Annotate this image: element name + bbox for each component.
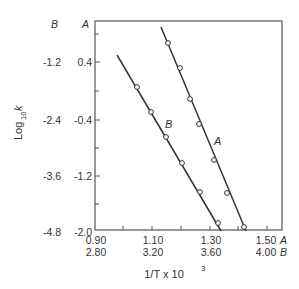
y-axis-title: Log 10 k <box>12 105 28 140</box>
x-tick-a-2: 1.30 <box>201 234 222 246</box>
y-axis-letter-a: A <box>81 18 89 30</box>
x-tick-labels-b: 2.80 3.20 3.60 4.00 <box>86 246 277 258</box>
data-point <box>166 41 171 46</box>
series-b: B <box>117 55 221 231</box>
y-axis-ticks <box>95 34 100 204</box>
data-point <box>216 221 221 226</box>
data-point <box>178 66 183 71</box>
x-tick-b-1: 3.20 <box>143 246 164 258</box>
data-point <box>197 122 202 127</box>
x-tick-b-2: 3.60 <box>201 246 222 258</box>
y-tick-labels-b: -1.2 -2.4 -3.6 -4.8 <box>43 56 61 238</box>
x-tick-a-3: 1.50 <box>256 234 277 246</box>
chart: B A -1.2 -2.4 -3.6 -4.8 0.4 -0.4 -1.2 -2… <box>0 0 299 289</box>
y-tick-b-2: -3.6 <box>43 170 61 182</box>
x-tick-a-0: 0.90 <box>86 234 107 246</box>
x-axis-title-main: 1/T x 10 <box>144 268 184 280</box>
y-tick-b-3: -4.8 <box>43 226 61 238</box>
x-axis-title: 1/T x 10 3 <box>144 264 206 280</box>
x-tick-b-0: 2.80 <box>86 246 107 258</box>
series-b-label: B <box>165 118 172 130</box>
data-point <box>242 225 247 230</box>
data-point <box>198 190 203 195</box>
y-tick-b-0: -1.2 <box>43 56 61 68</box>
data-point <box>180 161 185 166</box>
plot-frame <box>95 21 282 230</box>
data-point <box>188 97 193 102</box>
series-a-label: A <box>213 135 221 147</box>
data-point <box>149 110 154 115</box>
y-tick-a-1: -0.4 <box>74 114 92 126</box>
x-axis-letter-b: B <box>280 246 287 258</box>
x-tick-a-1: 1.10 <box>143 234 164 246</box>
y-tick-a-2: -1.2 <box>74 170 92 182</box>
data-point <box>212 158 217 163</box>
y-axis-title-main: Log <box>12 122 24 140</box>
data-point <box>225 191 230 196</box>
x-tick-labels-a: 0.90 1.10 1.30 1.50 <box>86 234 277 246</box>
y-tick-labels-a: 0.4 -0.4 -1.2 -2.0 <box>74 56 92 238</box>
x-axis-title-sup: 3 <box>201 264 206 273</box>
y-axis-title-sub: 10 <box>19 112 28 120</box>
x-axis-letter-a: A <box>279 234 287 246</box>
series-b-fit-line <box>117 55 221 231</box>
y-tick-a-0: 0.4 <box>77 56 92 68</box>
y-axis-letter-b: B <box>51 18 58 30</box>
data-point <box>164 135 169 140</box>
y-tick-b-1: -2.4 <box>43 114 61 126</box>
x-tick-b-3: 4.00 <box>256 246 277 258</box>
data-point <box>135 85 140 90</box>
y-axis-title-var: k <box>12 105 24 111</box>
